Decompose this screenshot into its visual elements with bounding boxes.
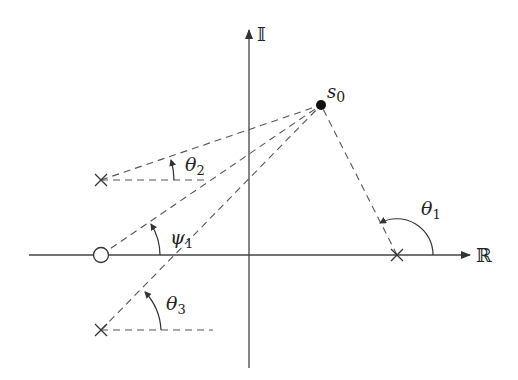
s0-point-icon (316, 100, 326, 110)
arc-theta1 (380, 219, 433, 255)
pole-zero-diagram: ℝ 𝕀 s0 θ1 θ2 θ3 ψ1 (0, 0, 518, 380)
line-pole-real-to-s0 (321, 105, 397, 255)
imaginary-axis-label: 𝕀 (257, 23, 266, 45)
line-pole-lower-to-s0 (101, 105, 321, 330)
s0-label: s0 (327, 81, 345, 105)
real-axis-label: ℝ (476, 244, 492, 266)
arc-theta2 (171, 160, 174, 180)
arc-theta3 (145, 292, 161, 330)
line-pole-upper-to-s0 (101, 105, 321, 180)
arc-psi1 (151, 224, 160, 255)
psi1-label: ψ1 (170, 226, 193, 251)
line-zero-to-s0 (101, 105, 321, 255)
theta3-label: θ3 (166, 292, 186, 317)
theta2-label: θ2 (185, 153, 205, 178)
zero-real-axis-icon (94, 248, 109, 263)
theta1-label: θ1 (421, 197, 441, 222)
